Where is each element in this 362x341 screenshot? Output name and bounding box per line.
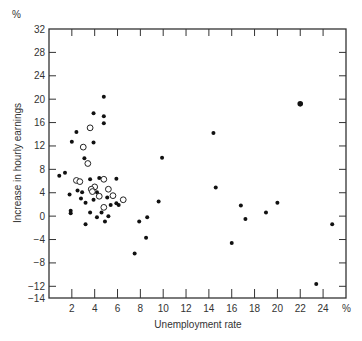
x-tick-label: 20 bbox=[272, 303, 284, 314]
filled-data-point bbox=[102, 121, 106, 125]
filled-data-point bbox=[137, 219, 141, 223]
filled-data-point bbox=[84, 222, 88, 226]
x-unit-label: % bbox=[342, 303, 351, 314]
open-data-point bbox=[101, 204, 107, 210]
y-tick-label: 16 bbox=[34, 117, 46, 128]
scatter-chart: 322824201612840−4−8−12−14 24681012141618… bbox=[0, 0, 362, 341]
x-tick-label: 12 bbox=[180, 303, 192, 314]
y-tick-label: 0 bbox=[39, 211, 45, 222]
filled-data-point bbox=[95, 215, 99, 219]
x-axis-title: Unemployment rate bbox=[154, 319, 242, 330]
x-tick-label: 22 bbox=[295, 303, 307, 314]
filled-data-point bbox=[239, 204, 243, 208]
filled-data-point bbox=[69, 211, 73, 215]
y-tick-label: −8 bbox=[34, 257, 46, 268]
open-data-point bbox=[96, 193, 102, 199]
y-unit-label: % bbox=[12, 9, 21, 20]
y-tick-label: 28 bbox=[34, 47, 46, 58]
filled-data-point bbox=[76, 188, 80, 192]
open-data-point bbox=[80, 144, 86, 150]
filled-data-point bbox=[114, 201, 118, 205]
filled-data-point bbox=[74, 130, 78, 134]
y-tick-label: 12 bbox=[34, 140, 46, 151]
filled-data-point bbox=[102, 95, 106, 99]
filled-data-point bbox=[214, 185, 218, 189]
filled-data-point bbox=[82, 156, 86, 160]
x-tick-label: 18 bbox=[249, 303, 261, 314]
filled-data-point bbox=[80, 190, 84, 194]
x-tick-label: 10 bbox=[158, 303, 170, 314]
filled-data-point bbox=[57, 174, 61, 178]
filled-data-point bbox=[211, 131, 215, 135]
filled-data-point bbox=[102, 114, 106, 118]
filled-data-point bbox=[92, 111, 96, 115]
filled-data-point bbox=[160, 156, 164, 160]
filled-data-point bbox=[314, 282, 318, 286]
y-tick-label: −12 bbox=[28, 281, 45, 292]
open-data-point bbox=[77, 179, 83, 185]
open-data-point bbox=[105, 186, 111, 192]
filled-data-point bbox=[157, 200, 161, 204]
filled-data-point bbox=[84, 201, 88, 205]
filled-data-point bbox=[133, 252, 137, 256]
filled-data-point bbox=[330, 222, 334, 226]
y-tick-label: −4 bbox=[34, 234, 46, 245]
open-data-point bbox=[120, 197, 126, 203]
filled-data-point bbox=[92, 198, 96, 202]
plot-frame bbox=[49, 29, 346, 298]
x-tick-label: 4 bbox=[92, 303, 98, 314]
large-data-point bbox=[297, 101, 303, 107]
filled-data-point bbox=[230, 241, 234, 245]
x-axis: 24681012141618202224 bbox=[69, 29, 329, 314]
filled-data-point bbox=[68, 192, 72, 196]
filled-data-point bbox=[275, 201, 279, 205]
filled-data-point bbox=[105, 195, 109, 199]
y-tick-label: 24 bbox=[34, 70, 46, 81]
filled-data-point bbox=[79, 197, 83, 201]
filled-data-point bbox=[70, 140, 74, 144]
y-tick-label: 4 bbox=[39, 187, 45, 198]
filled-data-point bbox=[63, 171, 67, 175]
filled-data-point bbox=[88, 211, 92, 215]
filled-data-point bbox=[92, 140, 96, 144]
filled-data-point bbox=[144, 236, 148, 240]
x-tick-label: 8 bbox=[138, 303, 144, 314]
x-tick-label: 14 bbox=[203, 303, 215, 314]
open-data-point bbox=[87, 125, 93, 131]
open-data-point bbox=[89, 189, 95, 195]
y-tick-label: 20 bbox=[34, 94, 46, 105]
filled-data-point bbox=[109, 203, 113, 207]
y-axis-title: Increase in hourly earnings bbox=[12, 103, 23, 223]
filled-data-point bbox=[264, 211, 268, 215]
filled-data-point bbox=[100, 211, 104, 215]
open-data-point bbox=[110, 193, 116, 199]
x-tick-label: 2 bbox=[69, 303, 75, 314]
filled-data-point bbox=[106, 214, 110, 218]
filled-data-point bbox=[145, 215, 149, 219]
data-points bbox=[57, 95, 334, 286]
x-tick-label: 24 bbox=[318, 303, 330, 314]
open-data-point bbox=[101, 176, 107, 182]
y-tick-label: 8 bbox=[39, 164, 45, 175]
filled-data-point bbox=[243, 217, 247, 221]
y-tick-label: −14 bbox=[28, 293, 45, 304]
open-data-point bbox=[85, 161, 91, 167]
x-tick-label: 16 bbox=[226, 303, 238, 314]
filled-data-point bbox=[103, 219, 107, 223]
filled-data-point bbox=[88, 177, 92, 181]
y-axis: 322824201612840−4−8−12−14 bbox=[28, 24, 346, 304]
y-tick-label: 32 bbox=[34, 24, 46, 35]
filled-data-point bbox=[114, 177, 118, 181]
x-tick-label: 6 bbox=[115, 303, 121, 314]
